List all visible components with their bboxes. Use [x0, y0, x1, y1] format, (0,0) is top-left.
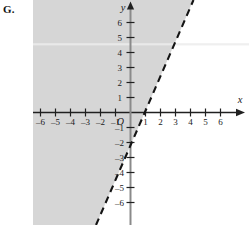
y-tick-label: –5 — [114, 183, 125, 193]
y-axis-label: y — [120, 2, 126, 13]
x-tick-label: 4 — [188, 117, 193, 127]
y-tick-label: 2 — [118, 78, 123, 88]
y-tick-label: 3 — [118, 63, 123, 73]
coordinate-plane: –6 –5 –4 –3 –2 –1 1 2 3 4 5 6 6 5 4 3 2 … — [33, 0, 249, 225]
y-tick-label: 1 — [118, 93, 123, 103]
scan-artifact — [33, 43, 249, 45]
x-tick-label: –5 — [50, 117, 61, 127]
x-tick-label: 3 — [173, 117, 178, 127]
x-tick-label: –3 — [80, 117, 91, 127]
y-tick-label: 4 — [118, 48, 123, 58]
x-tick-label: 1 — [143, 117, 148, 127]
x-tick-label: –2 — [95, 117, 105, 127]
origin-label: O — [117, 116, 124, 127]
x-tick-label: 2 — [158, 117, 163, 127]
y-tick-label: –6 — [114, 198, 125, 208]
problem-label: G. — [3, 3, 15, 15]
x-tick-label: 5 — [203, 117, 208, 127]
x-tick-label: –6 — [35, 117, 46, 127]
figure-root: G. — [0, 0, 249, 225]
y-tick-label: 5 — [118, 33, 123, 43]
x-tick-label: 6 — [218, 117, 223, 127]
x-axis-label: x — [237, 94, 243, 105]
y-tick-label: –2 — [114, 138, 124, 148]
y-tick-label: 6 — [118, 18, 123, 28]
x-tick-label: –4 — [65, 117, 76, 127]
y-tick-label: –3 — [114, 153, 125, 163]
graph-svg: –6 –5 –4 –3 –2 –1 1 2 3 4 5 6 6 5 4 3 2 … — [33, 0, 249, 225]
